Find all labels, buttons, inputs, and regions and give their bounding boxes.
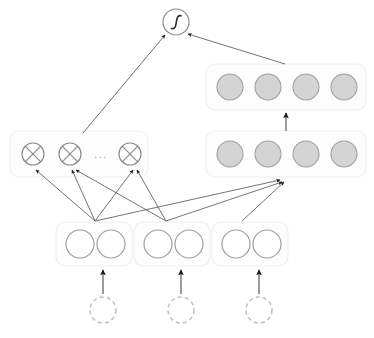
output-node[interactable] xyxy=(163,9,189,35)
multiply-layer-ellipsis: ... xyxy=(94,148,108,160)
top-feature-node-1[interactable] xyxy=(217,74,243,100)
edge-fan1-to-mid-layer xyxy=(95,180,280,221)
edge-multiply-to-output xyxy=(83,35,165,133)
input-node-3b[interactable] xyxy=(253,230,281,258)
source-node-1[interactable] xyxy=(90,297,116,323)
source-nodes xyxy=(90,297,272,323)
input-node-2a[interactable] xyxy=(144,230,172,258)
input-node-3a[interactable] xyxy=(222,230,250,258)
network-diagram: ... xyxy=(0,0,374,338)
mid-feature-node-2[interactable] xyxy=(255,141,281,167)
edge-fan2-to-mul2 xyxy=(76,170,166,221)
edge-fan3-to-mid-layer xyxy=(242,182,284,221)
diagram-canvas: ... xyxy=(0,0,374,338)
mid-feature-node-1[interactable] xyxy=(217,141,243,167)
source-node-3[interactable] xyxy=(246,297,272,323)
multiply-node-2[interactable] xyxy=(59,143,81,165)
mid-feature-node-3[interactable] xyxy=(293,141,319,167)
input-node-2b[interactable] xyxy=(175,230,203,258)
source-node-2[interactable] xyxy=(168,297,194,323)
edge-top-layer-to-output xyxy=(188,34,285,64)
mid-feature-node-4[interactable] xyxy=(331,141,357,167)
edge-fan1-to-mul2 xyxy=(72,170,95,221)
edge-fan2-to-mul3 xyxy=(137,170,166,221)
input-node-1a[interactable] xyxy=(66,230,94,258)
edge-fan1-to-mul1 xyxy=(36,170,95,221)
top-feature-node-2[interactable] xyxy=(255,74,281,100)
top-feature-node-3[interactable] xyxy=(293,74,319,100)
input-node-1b[interactable] xyxy=(97,230,125,258)
multiply-node-1[interactable] xyxy=(22,143,44,165)
edge-fan1-to-mul3 xyxy=(95,170,133,221)
multiply-node-3[interactable] xyxy=(119,143,141,165)
top-feature-node-4[interactable] xyxy=(331,74,357,100)
